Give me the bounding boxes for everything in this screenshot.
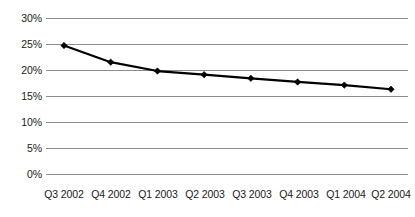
data-point-marker [108, 59, 114, 65]
data-point-marker [154, 68, 160, 74]
data-series-layer [0, 0, 415, 217]
data-point-marker [388, 86, 394, 92]
x-axis: Q3 2002 Q4 2002 Q1 2003 Q2 2003 Q3 2003 … [46, 188, 408, 204]
data-point-marker [248, 75, 254, 81]
data-point-marker [61, 42, 67, 48]
series-line [64, 46, 391, 90]
line-chart: 30% 25% 20% 15% 10% 5% 0% Q3 2002 Q4 200… [0, 0, 415, 217]
x-tick-label: Q2 2004 [361, 188, 415, 200]
data-point-marker [341, 82, 347, 88]
data-point-marker [201, 71, 207, 77]
series-markers [61, 42, 394, 92]
data-point-marker [294, 79, 300, 85]
